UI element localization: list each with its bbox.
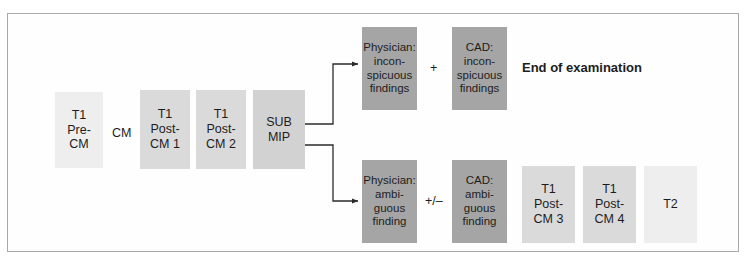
box-cad-inconspicuous: CAD: incon- spicuous findings <box>452 27 507 110</box>
box-t1-post-cm-1: T1 Post- CM 1 <box>140 90 190 169</box>
box-line: Post- <box>595 197 624 212</box>
box-line: SUB <box>266 115 292 130</box>
box-line: CM 4 <box>595 212 625 227</box>
box-physician-ambiguous: Physician: ambi- guous finding <box>362 160 417 243</box>
box-line: finding <box>463 215 497 229</box>
upper-branch-operator: + <box>430 61 437 75</box>
box-t1-pre-cm: T1 Pre- CM <box>55 92 103 168</box>
box-line: T1 <box>541 182 556 197</box>
box-line: Physician: <box>363 174 415 188</box>
box-t1-post-cm-2: T1 Post- CM 2 <box>196 90 246 169</box>
box-line: ambi- <box>465 188 494 202</box>
box-line: CM 2 <box>206 137 236 152</box>
end-of-examination-label: End of examination <box>522 60 642 75</box>
box-line: finding <box>373 215 407 229</box>
box-line: findings <box>460 82 500 96</box>
box-line: ambi- <box>375 188 404 202</box>
box-line: CAD: <box>466 174 493 188</box>
box-line: Post- <box>150 122 179 137</box>
box-line: CM 1 <box>150 137 180 152</box>
box-line: T1 <box>158 107 173 122</box>
box-line: T1 <box>602 182 617 197</box>
cm-arrow-label: CM <box>112 126 131 140</box>
box-line: spicuous <box>367 69 412 83</box>
box-line: Post- <box>206 122 235 137</box>
box-line: findings <box>370 82 410 96</box>
box-line: CAD: <box>466 41 493 55</box>
box-line: T2 <box>663 197 678 212</box>
box-line: incon- <box>464 55 495 69</box>
box-line: CM 3 <box>534 212 564 227</box>
box-line: spicuous <box>457 69 502 83</box>
box-sub-mip: SUB MIP <box>253 90 305 169</box>
box-physician-inconspicuous: Physician: incon- spicuous findings <box>362 27 417 110</box>
box-line: CM <box>69 137 88 152</box>
box-line: T1 <box>214 107 229 122</box>
box-line: MIP <box>268 130 290 145</box>
box-line: incon- <box>374 55 405 69</box>
diagram-canvas: T1 Pre- CM CM T1 Post- CM 1 T1 Post- CM … <box>0 0 749 264</box>
box-line: Post- <box>534 197 563 212</box>
box-t2: T2 <box>644 166 697 243</box>
box-line: Physician: <box>363 41 415 55</box>
lower-branch-operator: +/– <box>425 194 443 208</box>
box-cad-ambiguous: CAD: ambi- guous finding <box>452 160 507 243</box>
box-line: guous <box>464 202 495 216</box>
box-line: Pre- <box>67 123 91 138</box>
box-t1-post-cm-3: T1 Post- CM 3 <box>522 166 575 243</box>
box-line: T1 <box>72 108 87 123</box>
box-t1-post-cm-4: T1 Post- CM 4 <box>583 166 636 243</box>
box-line: guous <box>374 202 405 216</box>
